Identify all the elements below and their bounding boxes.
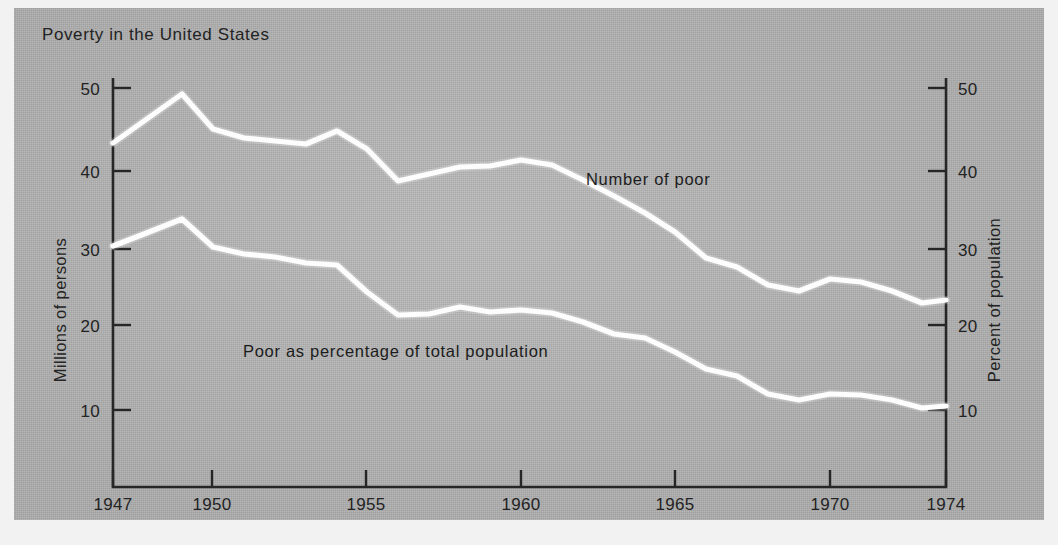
x-tick-label-1960: 1960 xyxy=(501,495,540,514)
left-tick-label-30: 30 xyxy=(80,241,100,260)
right-tick-label-10: 10 xyxy=(958,402,978,421)
x-tick-label-1950: 1950 xyxy=(192,495,231,514)
right-axis-ticks xyxy=(928,88,946,410)
series-poor-percentage xyxy=(113,219,946,408)
series-number-of-poor xyxy=(113,94,946,303)
right-tick-label-30: 30 xyxy=(958,241,978,260)
annotation-poor-percentage: Poor as percentage of total population xyxy=(243,342,548,360)
left-tick-label-10: 10 xyxy=(80,402,100,421)
left-tick-label-40: 40 xyxy=(80,163,100,182)
x-tick-label-1947: 1947 xyxy=(93,495,132,514)
chart-figure: Poverty in the United States xyxy=(0,0,1058,545)
x-tick-label-1970: 1970 xyxy=(810,495,849,514)
right-tick-label-20: 20 xyxy=(958,317,978,336)
left-axis-title: Millions of persons xyxy=(51,238,69,382)
x-tick-label-1974: 1974 xyxy=(926,495,965,514)
right-tick-label-40: 40 xyxy=(958,163,978,182)
x-tick-label-1965: 1965 xyxy=(655,495,694,514)
left-tick-label-50: 50 xyxy=(80,80,100,99)
x-tick-label-1955: 1955 xyxy=(346,495,385,514)
annotation-number-of-poor: Number of poor xyxy=(586,170,710,188)
bottom-axis-ticks xyxy=(113,470,946,487)
left-tick-label-20: 20 xyxy=(80,317,100,336)
right-axis-title: Percent of population xyxy=(985,218,1003,382)
chart-plot-area: 50 40 30 20 10 50 40 30 20 10 1947 1950 … xyxy=(0,0,1058,545)
right-tick-label-50: 50 xyxy=(958,80,978,99)
